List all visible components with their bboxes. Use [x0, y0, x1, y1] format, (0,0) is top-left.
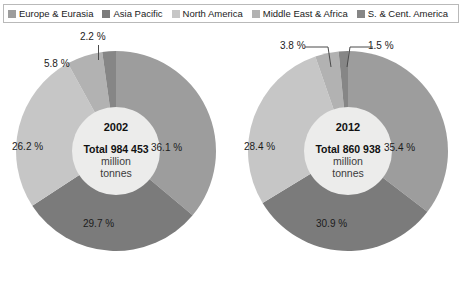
legend-swatch-icon [102, 10, 110, 18]
charts-container: 2002 Total 984 453 million tonnes 36.1 %… [0, 23, 464, 283]
chart-legend: Europe & Eurasia Asia Pacific North Amer… [3, 4, 459, 23]
donut-graphic [15, 50, 217, 252]
slice-label-s-cent-america: 2.2 % [80, 32, 106, 42]
legend-label: North America [183, 9, 243, 19]
legend-swatch-icon [357, 10, 365, 18]
pie-chart-2002: 2002 Total 984 453 million tonnes 36.1 %… [0, 23, 232, 283]
slice-label-europe-eurasia: 36.1 % [151, 143, 182, 153]
donut-graphic [247, 50, 449, 252]
slice-label-middle-east-africa: 5.8 % [44, 59, 70, 69]
pie-chart-2012: 2012 Total 860 938 million tonnes 35.4 %… [232, 23, 464, 283]
slice-label-north-america: 26.2 % [12, 142, 43, 152]
legend-item-s-cent-america[interactable]: S. & Cent. America [357, 9, 448, 19]
legend-label: S. & Cent. America [368, 9, 448, 19]
legend-item-asia-pacific[interactable]: Asia Pacific [102, 9, 162, 19]
legend-label: Middle East & Africa [263, 9, 348, 19]
donut-svg [15, 50, 217, 252]
donut-svg [247, 50, 449, 252]
slice-label-europe-eurasia: 35.4 % [384, 143, 415, 153]
legend-item-europe-eurasia[interactable]: Europe & Eurasia [8, 9, 93, 19]
slice-label-asia-pacific: 29.7 % [83, 219, 114, 229]
legend-label: Asia Pacific [113, 9, 162, 19]
legend-swatch-icon [252, 10, 260, 18]
leader-line-s-cent-america [98, 45, 99, 60]
legend-swatch-icon [8, 10, 16, 18]
legend-item-north-america[interactable]: North America [172, 9, 243, 19]
slice-label-asia-pacific: 30.9 % [316, 219, 347, 229]
leader-lines [302, 43, 376, 67]
donut-hole [304, 107, 392, 195]
legend-item-middle-east-africa[interactable]: Middle East & Africa [252, 9, 348, 19]
legend-swatch-icon [172, 10, 180, 18]
donut-hole [72, 107, 160, 195]
legend-label: Europe & Eurasia [19, 9, 93, 19]
slice-label-north-america: 28.4 % [244, 142, 275, 152]
chart-page: Europe & Eurasia Asia Pacific North Amer… [0, 0, 464, 283]
